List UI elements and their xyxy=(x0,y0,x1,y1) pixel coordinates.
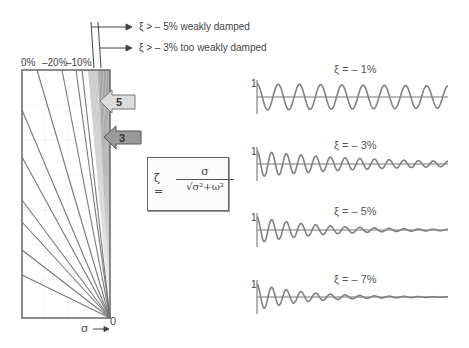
formula-denominator: √σ²+ω² xyxy=(176,180,234,192)
plot-2-title: ξ = – 3% xyxy=(334,140,377,151)
formula-lhs: ζ = xyxy=(154,172,163,198)
formula-fraction: σ √σ²+ω² xyxy=(176,165,234,192)
plot-2-ytick: 1 xyxy=(251,147,257,157)
label-leaders xyxy=(91,22,132,68)
arrow-5-label: 5 xyxy=(116,96,122,108)
plot-4-title: ξ = – 7% xyxy=(334,274,377,285)
damping-diagram: ξ > – 5% weakly damped ξ > – 3% too weak… xyxy=(0,0,469,348)
damping-formula-box: ζ = σ √σ²+ω² xyxy=(147,157,229,211)
plot-1-title: ξ = – 1% xyxy=(334,64,377,75)
plot-4-ytick: 1 xyxy=(251,280,257,290)
response-waveform-3 xyxy=(257,217,448,242)
response-waveform-4 xyxy=(257,284,448,308)
formula-numerator: σ xyxy=(176,165,234,180)
sigma-label: σ xyxy=(81,323,89,334)
weakly-damped-label: ξ > – 5% weakly damped xyxy=(139,22,250,32)
plot-3-ytick: 1 xyxy=(251,213,257,223)
plot-1-ytick: 1 xyxy=(251,79,257,89)
sigma-axis-arrow xyxy=(93,327,109,332)
origin-label: 0 xyxy=(110,316,116,327)
ratio-label-minus20: –20% xyxy=(42,58,68,68)
ratio-label-minus10: –10% xyxy=(66,58,92,68)
arrow-3-label: 3 xyxy=(119,132,125,144)
plot-3-title: ξ = – 5% xyxy=(334,206,377,217)
ratio-label-0: 0% xyxy=(21,58,35,68)
too-weakly-damped-label: ξ > – 3% too weakly damped xyxy=(139,43,267,53)
